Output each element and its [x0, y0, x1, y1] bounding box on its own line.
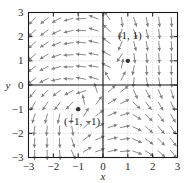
x-axis-label: x [100, 170, 106, 182]
y-tick-label: 3 [18, 6, 24, 18]
direction-field-figure: −3−2−10123−3−2−10123xy(1, 1)(−1, −1) [0, 0, 186, 183]
point-annotation: (1, 1) [118, 29, 142, 42]
y-tick-label: −3 [12, 151, 24, 163]
x-tick-label: 2 [150, 160, 156, 172]
x-tick-label: 1 [125, 160, 131, 172]
equilibrium-point [126, 59, 130, 63]
y-tick-label: 2 [18, 30, 24, 42]
x-tick-label: 3 [175, 160, 181, 172]
equilibrium-point [76, 107, 80, 111]
y-tick-label: 0 [18, 79, 24, 91]
x-tick-label: −2 [47, 160, 59, 172]
x-tick-label: −3 [23, 160, 35, 172]
y-axis-label: y [5, 79, 11, 91]
y-tick-label: −1 [12, 103, 24, 115]
y-tick-label: −2 [12, 127, 24, 139]
vector-field-plot: −3−2−10123−3−2−10123xy(1, 1)(−1, −1) [0, 0, 186, 183]
point-annotation: (−1, −1) [64, 115, 101, 128]
x-tick-label: −1 [72, 160, 84, 172]
y-tick-label: 1 [18, 54, 24, 66]
plot-background [0, 0, 186, 183]
